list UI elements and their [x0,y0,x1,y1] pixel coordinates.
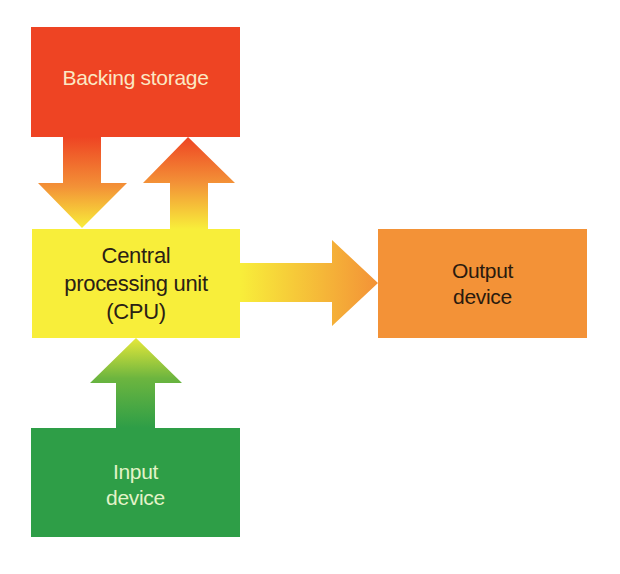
arrow-input-to-cpu [90,338,182,428]
output-device-box: Output device [378,229,587,338]
arrow-backing-to-cpu [38,137,127,228]
arrow-cpu-to-output [240,240,378,326]
output-device-label: Output device [452,258,513,310]
input-device-label: Input device [106,459,165,511]
backing-storage-label: Backing storage [62,65,208,91]
cpu-label: Central processing unit (CPU) [64,242,207,326]
diagram: Backing storage Central processing unit … [0,0,620,574]
cpu-box: Central processing unit (CPU) [32,229,240,338]
input-device-box: Input device [31,428,240,537]
backing-storage-box: Backing storage [31,27,240,137]
arrow-cpu-to-backing [143,137,235,229]
